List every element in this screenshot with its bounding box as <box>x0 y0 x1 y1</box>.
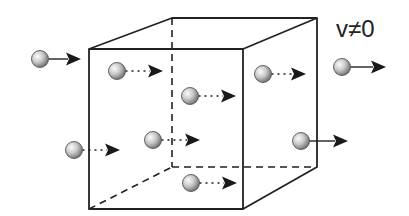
particle-sphere-icon <box>32 51 49 68</box>
arrowhead-icon <box>291 68 306 81</box>
hidden-edge-bottom-diagonal <box>89 167 172 209</box>
particles <box>32 51 387 192</box>
particle-sphere-icon <box>182 88 199 105</box>
particle-sphere-icon <box>66 142 83 159</box>
cube-top-face <box>89 18 317 49</box>
particle-sphere-icon <box>334 59 351 76</box>
arrowhead-icon <box>66 53 81 66</box>
particle-inside-2 <box>182 88 237 105</box>
particle-inside-1 <box>109 63 164 80</box>
arrowhead-icon <box>222 177 237 190</box>
cube-right-face <box>243 18 317 209</box>
particle-inside-4 <box>66 142 121 159</box>
particle-sphere-icon <box>293 133 310 150</box>
particle-inside-3 <box>255 66 307 83</box>
particle-outside-left <box>32 51 82 68</box>
cube-hidden-edges <box>89 18 317 209</box>
arrowhead-icon <box>333 135 348 148</box>
arrowhead-icon <box>105 144 120 157</box>
particle-sphere-icon <box>255 66 272 83</box>
particle-sphere-icon <box>145 132 162 149</box>
arrowhead-icon <box>185 134 200 147</box>
particle-sphere-icon <box>183 175 200 192</box>
particle-outside-right-top <box>334 59 387 76</box>
arrowhead-icon <box>371 61 386 74</box>
particle-inside-6 <box>183 175 238 192</box>
cube-visible-edges <box>89 18 317 209</box>
particle-outside-right-bottom <box>293 133 349 150</box>
arrowhead-icon <box>148 65 163 78</box>
velocity-label: v≠0 <box>336 15 375 43</box>
particle-sphere-icon <box>109 63 126 80</box>
arrowhead-icon <box>221 90 236 103</box>
